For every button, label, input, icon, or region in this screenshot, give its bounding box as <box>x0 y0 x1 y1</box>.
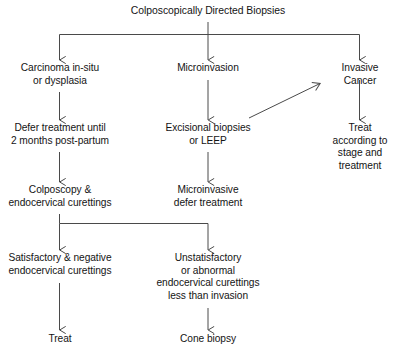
node-microinvasive-defer-treatment: Microinvasive defer treatment <box>174 184 242 209</box>
node-carcinoma-in-situ-or-dysplasia: Carcinoma in-situ or dysplasia <box>21 62 99 87</box>
node-treat-according-to-stage-and-treatment: Treat according to stage and treatment <box>332 122 388 172</box>
node-satisfactory-and-negative-endocervical-curettings: Satisfactory & negative endocervical cur… <box>8 252 111 277</box>
flowchart-canvas: Colposcopically Directed Biopsies Carcin… <box>0 0 416 363</box>
node-colposcopy-and-endocervical-curettings: Colposcopy & endocervical curettings <box>8 184 111 209</box>
node-microinvasion: Microinvasion <box>177 62 239 75</box>
flowchart-connectors <box>0 0 416 363</box>
edge-excisional-to-invasive-cancer <box>249 84 320 119</box>
node-treat: Treat <box>48 333 71 346</box>
node-unsatisfactory-or-abnormal-endocervical-curettings: Unstatisfactory or abnormal endocervical… <box>156 252 259 302</box>
node-invasive-cancer: Invasive Cancer <box>332 62 388 87</box>
node-cone-biopsy: Cone biopsy <box>180 333 236 346</box>
node-defer-treatment-until-2-months-post-partum: Defer treatment until 2 months post-part… <box>11 122 109 147</box>
node-root-colposcopically-directed-biopsies: Colposcopically Directed Biopsies <box>131 5 285 18</box>
node-excisional-biopsies-or-leep: Excisional biopsies or LEEP <box>165 122 250 147</box>
